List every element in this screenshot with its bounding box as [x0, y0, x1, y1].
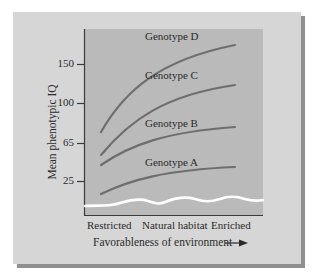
y-tick-label-150: 150 — [50, 57, 74, 69]
series-label-genotype-c: Genotype C — [145, 69, 198, 81]
baseline-wave — [85, 197, 263, 206]
x-category-restricted: Restricted — [87, 219, 132, 231]
series-label-genotype-b: Genotype B — [145, 117, 198, 129]
curve-genotype-a — [101, 167, 235, 194]
x-category-enriched: Enriched — [211, 219, 251, 231]
x-category-natural-habitat: Natural habitat — [142, 219, 208, 231]
y-ticks — [77, 65, 84, 182]
series-label-genotype-d: Genotype D — [145, 30, 198, 42]
y-tick-label-65: 65 — [50, 136, 74, 148]
right-arrow-icon — [239, 240, 248, 247]
series-label-genotype-a: Genotype A — [145, 156, 198, 168]
x-axis-title: Favorableness of environment — [93, 236, 232, 248]
y-tick-label-25: 25 — [50, 174, 74, 186]
y-tick-label-100: 100 — [50, 96, 74, 108]
